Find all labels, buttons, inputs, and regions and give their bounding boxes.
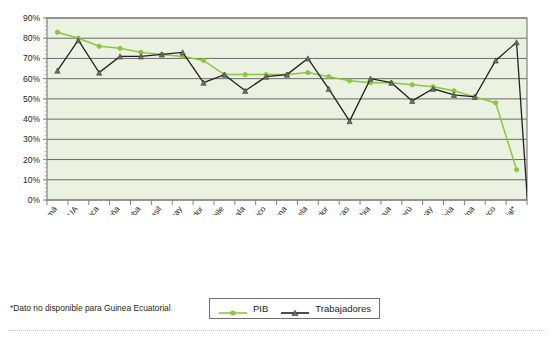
data-point-pib <box>243 73 247 77</box>
data-point-pib <box>348 79 352 83</box>
x-tick-label: España <box>97 204 121 215</box>
chart-legend: PIBTrabajadores <box>209 298 380 319</box>
legend-item-trabajadores[interactable]: Trabajadores <box>280 303 371 314</box>
y-tick-label: 40% <box>23 114 40 124</box>
legend-item-pib[interactable]: PIB <box>218 303 268 314</box>
y-tick-label: 50% <box>23 94 40 104</box>
data-point-pib <box>201 58 205 62</box>
legend-marker-circle-icon <box>218 304 248 314</box>
x-tick-label: EUA <box>62 204 80 215</box>
x-tick-label: Brasil <box>144 205 164 215</box>
line-chart-svg: 90%80%70%60%50%40%30%20%10%0%PanamáEUACo… <box>0 0 554 215</box>
x-tick-label: México <box>245 204 268 215</box>
chart-plot-container: 90%80%70%60%50%40%30%20%10%0%PanamáEUACo… <box>0 0 554 215</box>
y-tick-label: 80% <box>23 33 40 43</box>
data-point-pib <box>494 101 498 105</box>
bottom-divider <box>8 330 546 331</box>
y-tick-label: 90% <box>23 13 40 23</box>
data-point-pib <box>327 75 331 79</box>
chart-footnote: *Dato no disponible para Guinea Ecuatori… <box>10 303 171 313</box>
x-tick-label: Panamá <box>33 204 59 215</box>
legend-marker-triangle-icon <box>280 304 310 314</box>
legend-label: Trabajadores <box>315 303 371 314</box>
chart-figure: 90%80%70%60%50%40%30%20%10%0%PanamáEUACo… <box>0 0 554 343</box>
data-point-pib <box>514 168 518 172</box>
y-tick-label: 70% <box>23 53 40 63</box>
y-tick-label: 0% <box>28 195 41 205</box>
data-point-pib <box>410 83 414 87</box>
x-tick-label: Cuba <box>123 204 142 215</box>
data-point-pib <box>97 44 101 48</box>
y-tick-label: 30% <box>23 134 40 144</box>
plot-background <box>47 18 527 200</box>
x-tick-label: Bolivia <box>434 204 456 215</box>
x-tick-label: Perú <box>396 204 414 215</box>
y-tick-label: 60% <box>23 74 40 84</box>
legend-label: PIB <box>253 303 268 314</box>
y-tick-label: 10% <box>23 175 40 185</box>
data-point-pib <box>118 46 122 50</box>
x-tick-label: Chile <box>207 204 226 215</box>
data-point-pib <box>55 30 59 34</box>
y-tick-label: 20% <box>23 155 40 165</box>
data-point-pib <box>306 71 310 75</box>
